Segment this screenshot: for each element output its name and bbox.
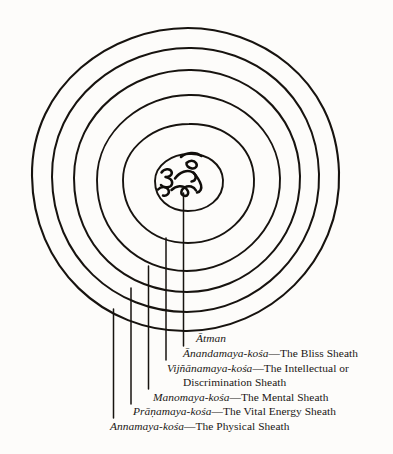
- circle-ring-4-manomaya: [74, 70, 300, 292]
- leader-line-group: [114, 193, 184, 418]
- concentric-circles-diagram: [0, 0, 393, 454]
- om-symbol-icon: [158, 153, 202, 196]
- circle-ring-6-annamaya: [32, 28, 339, 331]
- pancha-kosha-figure: Ātman Ānandamaya-kośa—The Bliss Sheath V…: [0, 0, 393, 454]
- circle-ring-3-vijnanamaya: [97, 95, 280, 271]
- circle-ring-2-anandamaya: [123, 124, 254, 243]
- circle-group: [32, 28, 339, 331]
- circle-ring-5-pranamaya: [52, 48, 319, 312]
